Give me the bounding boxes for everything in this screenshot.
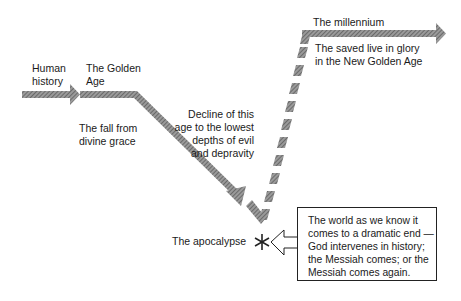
golden-age-label: The Golden Age [86, 62, 141, 88]
callout-line: God intervenes in history; [308, 240, 436, 253]
label-line: and depravity [166, 147, 254, 160]
label-line: Age [86, 75, 141, 88]
callout-line: Messiah comes again. [308, 266, 436, 279]
callout-line: comes to a dramatic end — [308, 227, 436, 240]
callout-line: the Messiah comes; or the [308, 253, 436, 266]
asterisk-icon [255, 234, 269, 250]
label-line: The fall from [79, 122, 137, 135]
apocalypse-callout-box: The world as we know it comes to a drama… [297, 207, 437, 281]
label-line: divine grace [79, 135, 137, 148]
fall-label: The fall from divine grace [79, 122, 137, 148]
label-line: history [32, 75, 66, 88]
label-line: Decline of this [166, 108, 254, 121]
label-line: in the New Golden Age [315, 55, 422, 68]
millennium-label: The millennium [313, 16, 384, 29]
label-line: age to the lowest [166, 121, 254, 134]
decline-label: Decline of this age to the lowest depths… [166, 108, 254, 160]
label-line: Human [32, 62, 66, 75]
callout-line: The world as we know it [308, 214, 436, 227]
apocalypse-label: The apocalypse [172, 235, 246, 248]
callout-pointer-arrow [271, 230, 299, 255]
saved-label: The saved live in glory in the New Golde… [315, 42, 422, 68]
human-history-label: Human history [32, 62, 66, 88]
label-line: depths of evil [166, 134, 254, 147]
ascent-dashed-arrow [259, 36, 310, 220]
label-line: The saved live in glory [315, 42, 422, 55]
label-line: The Golden [86, 62, 141, 75]
